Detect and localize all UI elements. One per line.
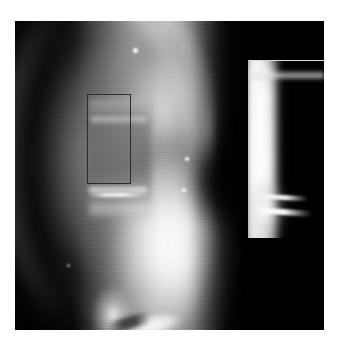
roi-selection-rectangle[interactable] [87,94,131,184]
inset-top-dark-corner [284,60,324,71]
calcification-speck-3 [182,188,186,192]
magnified-inset-panel[interactable] [248,60,324,238]
calcification-speck-1 [133,48,138,53]
calcification-speck-4 [67,264,70,267]
roi-fracture-line [91,193,145,197]
calcification-speck-2 [185,157,189,161]
radiograph-figure [0,0,338,343]
inset-endplate-line [248,71,324,80]
